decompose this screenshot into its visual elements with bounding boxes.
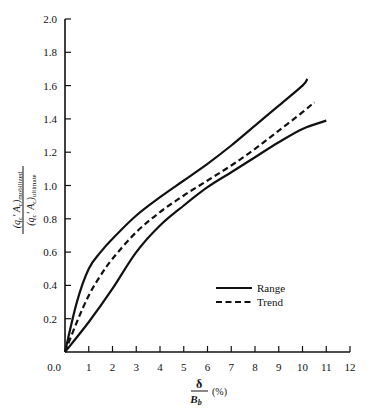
- y-axis-title: (qc′ Ac)mobilized(qc′ Ac)ultimate: [11, 166, 38, 234]
- svg-text:δ: δ: [196, 377, 202, 391]
- x-axis-title: δBb(%): [189, 377, 227, 407]
- svg-text:(%): (%): [212, 386, 227, 398]
- x-tick-label: 2: [110, 361, 116, 373]
- y-tick-label: 0.8: [43, 213, 57, 225]
- y-tick-label: 2.0: [43, 13, 57, 25]
- y-tick-label: 0.4: [43, 279, 57, 291]
- chart: 0.20.40.60.81.01.21.41.61.82.00.01234567…: [0, 0, 369, 409]
- svg-text:(qc′ Ac)ultimate: (qc′ Ac)ultimate: [25, 174, 38, 225]
- svg-text:Bb: Bb: [189, 393, 201, 407]
- y-tick-label: 1.2: [43, 146, 57, 158]
- origin-label: 0.0: [47, 361, 61, 373]
- legend-label: Trend: [257, 296, 283, 308]
- y-tick-label: 1.0: [43, 180, 57, 192]
- y-tick-label: 1.8: [43, 46, 57, 58]
- x-tick-label: 10: [297, 361, 309, 373]
- curves: [65, 79, 326, 352]
- x-tick-label: 7: [229, 361, 235, 373]
- x-tick-label: 11: [321, 361, 332, 373]
- x-tick-label: 12: [345, 361, 356, 373]
- trend-line: [65, 102, 314, 352]
- y-tick-label: 1.6: [43, 80, 57, 92]
- range-line: [65, 79, 307, 352]
- y-tick-label: 1.4: [43, 113, 57, 125]
- legend-label: Range: [257, 282, 285, 294]
- range-line: [65, 121, 326, 352]
- x-tick-label: 6: [205, 361, 211, 373]
- svg-text:(qc′ Ac)mobilized: (qc′ Ac)mobilized: [11, 171, 24, 228]
- x-tick-label: 8: [252, 361, 258, 373]
- x-tick-label: 4: [157, 361, 163, 373]
- y-tick-label: 0.6: [43, 246, 57, 258]
- x-tick-label: 3: [134, 361, 140, 373]
- legend: RangeTrend: [216, 282, 285, 308]
- x-tick-label: 5: [181, 361, 187, 373]
- x-tick-label: 1: [86, 361, 92, 373]
- x-tick-label: 9: [276, 361, 282, 373]
- y-tick-label: 0.2: [43, 313, 57, 325]
